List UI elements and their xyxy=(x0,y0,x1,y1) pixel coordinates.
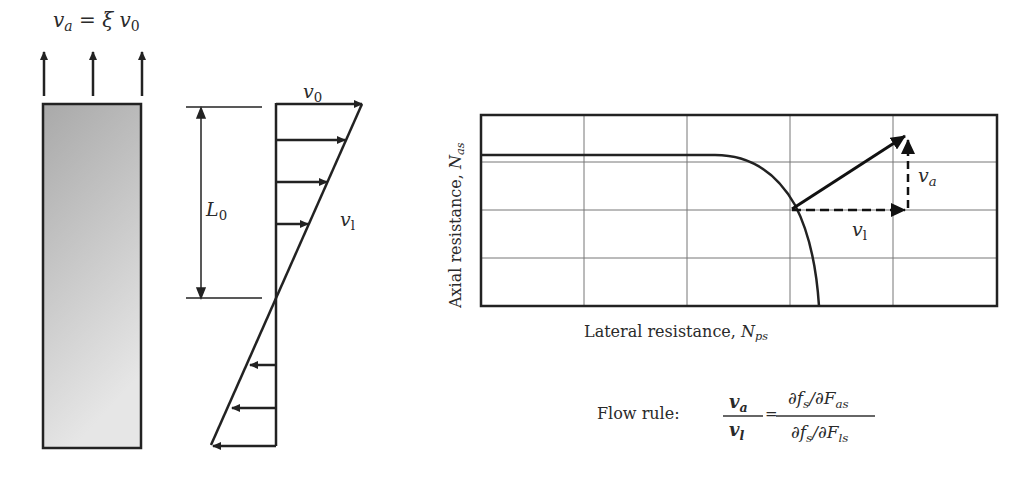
flow-rule-rhs-den: ∂fs/∂Fls xyxy=(791,424,848,444)
y-axis-label: Axial resistance, Nas xyxy=(446,143,467,308)
flow-rule-rhs-num: ∂fs/∂Fas xyxy=(788,390,849,410)
va-vector-label: va xyxy=(918,166,937,188)
pile-body xyxy=(43,104,141,448)
pile-uplift-arrows xyxy=(44,52,142,96)
flow-rule-label: Flow rule: xyxy=(597,404,680,423)
uplift-velocity-label: va = ξ v0 xyxy=(53,10,140,33)
vl-vector-label: vl xyxy=(852,220,867,242)
flow-rule-lhs-num: va xyxy=(729,393,748,414)
velocity-profile xyxy=(211,103,362,446)
length-label: L0 xyxy=(206,200,227,222)
flow-vectors xyxy=(792,136,908,210)
v0-label: v0 xyxy=(303,82,322,104)
diagram-canvas xyxy=(0,0,1034,479)
chart-grid xyxy=(481,115,997,306)
vl-profile-label: vl xyxy=(340,210,355,232)
x-axis-label: Lateral resistance, Nps xyxy=(584,322,768,343)
flow-rule-lhs-den: vl xyxy=(729,421,744,442)
flow-rule-equals: = xyxy=(765,407,778,422)
yield-surface-curve xyxy=(481,155,819,306)
